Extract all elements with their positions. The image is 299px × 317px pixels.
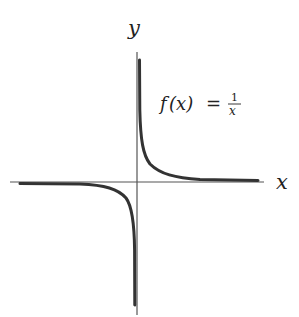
function-annotation: f (x) = 1 x	[158, 91, 241, 118]
fraction-numerator: 1	[231, 91, 238, 104]
y-axis-label: y	[127, 16, 141, 40]
function-argument: (x)	[169, 93, 193, 114]
curve-positive-branch	[140, 60, 259, 181]
function-plot: y x f (x) = 1 x	[0, 0, 299, 317]
x-axis-label: x	[276, 170, 288, 194]
equals-sign: =	[206, 93, 221, 114]
curve-negative-branch	[20, 184, 135, 306]
fraction-denominator: x	[229, 104, 236, 118]
